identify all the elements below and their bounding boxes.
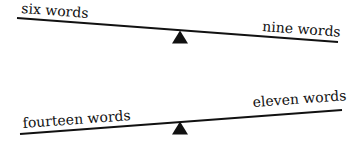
scale-bottom: fourteen words eleven words — [20, 87, 347, 134]
fulcrum-top-icon — [172, 31, 188, 44]
scale-top: six words nine words — [17, 0, 341, 43]
label-top-left: six words — [21, 0, 89, 21]
balance-diagram: six words nine words fourteen words elev… — [0, 0, 360, 146]
label-bottom-right: eleven words — [252, 87, 347, 110]
